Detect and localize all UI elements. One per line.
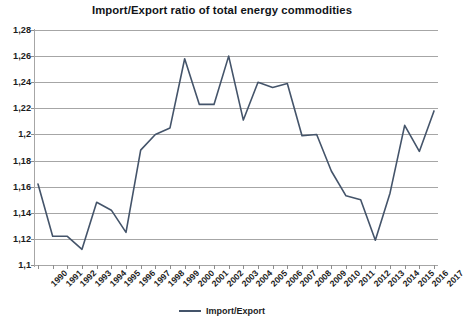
y-axis-tick-label: 1,2: [1, 129, 31, 139]
x-axis: 1990199119921993199419951996199719981999…: [34, 268, 438, 302]
y-axis-tick-label: 1,12: [1, 234, 31, 244]
x-axis-tick-label: 2017: [445, 268, 465, 289]
y-axis-tick-label: 1,24: [1, 77, 31, 87]
y-axis-tick-label: 1,22: [1, 103, 31, 113]
legend-swatch-import-export: [179, 310, 201, 312]
y-axis-tick-label: 1,14: [1, 208, 31, 218]
y-axis-tick-label: 1,18: [1, 156, 31, 166]
y-axis: 1,281,261,241,221,21,181,161,141,121,1: [0, 30, 31, 265]
y-axis-tick-label: 1,16: [1, 182, 31, 192]
y-axis-tick-label: 1,28: [1, 25, 31, 35]
plot-area: [34, 30, 438, 265]
legend-label-import-export: Import/Export: [206, 306, 265, 316]
y-axis-tick-label: 1,1: [1, 260, 31, 270]
series-line-import-export: [38, 56, 434, 249]
series-layer: [34, 30, 438, 265]
chart-legend: Import/Export: [0, 306, 444, 316]
y-axis-tick-label: 1,26: [1, 51, 31, 61]
chart-title: Import/Export ratio of total energy comm…: [0, 4, 444, 16]
